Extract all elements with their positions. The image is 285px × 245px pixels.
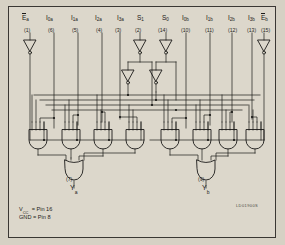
inverter-Eb	[258, 40, 270, 54]
inverter-Ea	[24, 40, 36, 54]
logic-diagram-figure: Ea I0a I1a I2a I3a S1 S0 I0b I1b I2b I3b…	[0, 0, 285, 245]
or-gate-b	[197, 160, 215, 180]
junction-dots	[43, 94, 253, 141]
or-gate-a	[65, 160, 83, 180]
schematic-artwork	[0, 0, 285, 245]
inverter-S1-second	[122, 70, 134, 84]
inverter-S1-first	[134, 40, 146, 54]
inverter-S0-first	[160, 40, 172, 54]
